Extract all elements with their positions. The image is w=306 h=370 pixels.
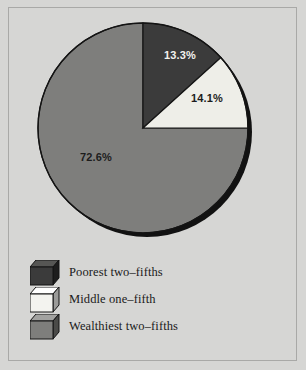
legend-label-middle: Middle one–fifth <box>69 292 156 307</box>
legend-item-poorest-two-fifths[interactable]: Poorest two–fifths <box>30 259 280 286</box>
pie-label-wealthiest: 72.6% <box>80 151 112 163</box>
legend-item-wealthiest-two-fifths[interactable]: Wealthiest two–fifths <box>30 313 280 340</box>
pie-chart: 13.3% 14.1% 72.6% <box>0 0 306 250</box>
legend-label-poorest: Poorest two–fifths <box>69 265 163 280</box>
pie-label-poorest: 13.3% <box>164 49 196 61</box>
legend-item-middle-one-fifth[interactable]: Middle one–fifth <box>30 286 280 313</box>
legend: Poorest two–fifths Middle one–fifth Weal… <box>30 259 280 340</box>
legend-cube-icon-poorest <box>30 260 60 286</box>
legend-cube-icon-wealthiest <box>30 314 60 340</box>
pie-chart-svg: 13.3% 14.1% 72.6% <box>0 0 306 250</box>
chart-page: 13.3% 14.1% 72.6% Poorest two–fifths Mid… <box>0 0 306 370</box>
legend-label-wealthiest: Wealthiest two–fifths <box>69 319 178 334</box>
legend-cube-icon-middle <box>30 287 60 313</box>
pie-label-middle: 14.1% <box>191 92 223 104</box>
